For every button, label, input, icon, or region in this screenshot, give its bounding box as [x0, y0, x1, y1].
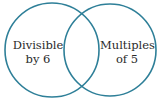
set-label-line: Divisible: [10, 38, 66, 52]
set-label-line: Multiples: [100, 38, 154, 52]
set-label-line: by 6: [10, 52, 66, 66]
set-label-divisible-by-6: Divisible by 6: [10, 38, 66, 66]
set-label-multiples-of-5: Multiples of 5: [100, 38, 154, 66]
set-label-line: of 5: [100, 52, 154, 66]
